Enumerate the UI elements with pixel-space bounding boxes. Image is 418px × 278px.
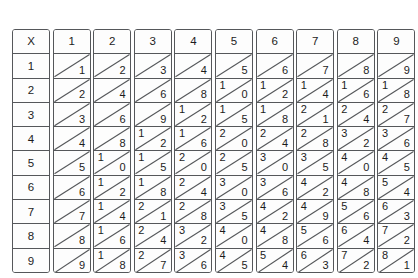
product-cell: 12	[135, 127, 171, 151]
column-header-cell-label: 1	[68, 36, 74, 48]
product-units-digit: 2	[282, 211, 288, 222]
product-cell: 63	[297, 249, 333, 273]
product-units-digit: 4	[282, 138, 288, 149]
product-tens-digit: 2	[220, 128, 226, 139]
product-tens-digit: 5	[260, 250, 266, 261]
product-tens-digit: 1	[179, 104, 185, 115]
product-tens-digit: 3	[220, 177, 226, 188]
product-cell: 16	[338, 79, 374, 103]
product-cell: 12	[175, 103, 211, 127]
product-units-digit: 5	[404, 162, 410, 173]
product-units-digit: 6	[363, 211, 369, 222]
product-tens-digit: 3	[341, 128, 347, 139]
product-tens-digit: 1	[341, 80, 347, 91]
product-tens-digit: 4	[341, 152, 347, 163]
product-tens-digit: 1	[220, 104, 226, 115]
row-header-cell: 7	[13, 200, 49, 224]
product-units-digit: 6	[363, 89, 369, 100]
product-cell: 10	[94, 151, 130, 175]
product-cell: 14	[297, 79, 333, 103]
product-units-digit: 8	[323, 138, 329, 149]
row-header-label: 8	[13, 224, 49, 247]
product-units-digit: 1	[404, 260, 410, 271]
product-tens-digit: 2	[382, 104, 388, 115]
product-cell: 25	[216, 151, 252, 175]
product-units-digit: 9	[79, 260, 85, 271]
column-header-cell: 3	[135, 30, 171, 54]
product-tens-digit: 4	[301, 201, 307, 212]
product-units-digit: 5	[241, 65, 247, 76]
product-units-digit: 6	[282, 65, 288, 76]
product-cell: 54	[257, 249, 293, 273]
product-units-digit: 0	[201, 162, 207, 173]
product-tens-digit: 1	[260, 80, 266, 91]
product-tens-digit: 2	[260, 128, 266, 139]
product-cell: 36	[378, 127, 414, 151]
product-cell: 18	[94, 249, 130, 273]
product-units-digit: 0	[120, 162, 126, 173]
product-cell: 32	[175, 224, 211, 248]
row-header-cell: 5	[13, 151, 49, 175]
product-tens-digit: 3	[301, 152, 307, 163]
column-header-cell: 5	[216, 30, 252, 54]
product-units-digit: 8	[363, 187, 369, 198]
product-cell: 7	[54, 200, 90, 224]
column-header-cell: 2	[94, 30, 130, 54]
product-cell: 45	[378, 151, 414, 175]
product-cell: 27	[378, 103, 414, 127]
product-units-digit: 2	[201, 235, 207, 246]
product-units-digit: 4	[282, 260, 288, 271]
product-tens-digit: 2	[301, 104, 307, 115]
product-cell: 30	[216, 176, 252, 200]
product-cell: 9	[135, 103, 171, 127]
product-cell: 72	[378, 224, 414, 248]
product-units-digit: 6	[201, 260, 207, 271]
column-header-cell: 1	[54, 30, 90, 54]
product-units-digit: 2	[323, 187, 329, 198]
product-units-digit: 0	[241, 235, 247, 246]
column-header-cell: 4	[175, 30, 211, 54]
product-units-digit: 2	[120, 187, 126, 198]
row-header-cell: 2	[13, 79, 49, 103]
product-cell: 6	[94, 103, 130, 127]
product-tens-digit: 7	[341, 250, 347, 261]
product-units-digit: 0	[241, 89, 247, 100]
product-column-4: 44812162024283236	[174, 29, 212, 273]
row-header-label: 7	[13, 200, 49, 223]
product-units-digit: 8	[282, 114, 288, 125]
column-header-cell: 9	[378, 30, 414, 54]
product-cell: 15	[216, 103, 252, 127]
product-tens-digit: 2	[301, 128, 307, 139]
product-cell: 3	[54, 103, 90, 127]
column-header-cell-label: 5	[231, 36, 237, 48]
column-header-cell: 8	[338, 30, 374, 54]
column-header-cell-label: 8	[353, 36, 359, 48]
product-cell: 4	[54, 127, 90, 151]
product-units-digit: 6	[201, 138, 207, 149]
product-units-digit: 6	[120, 235, 126, 246]
product-cell: 1	[54, 54, 90, 78]
product-tens-digit: 2	[220, 152, 226, 163]
product-tens-digit: 2	[179, 177, 185, 188]
column-header-cell: 7	[297, 30, 333, 54]
product-cell: 24	[257, 127, 293, 151]
product-cell: 24	[175, 176, 211, 200]
product-units-digit: 9	[160, 114, 166, 125]
product-units-digit: 3	[160, 65, 166, 76]
product-cell: 56	[297, 224, 333, 248]
product-units-digit: 2	[79, 89, 85, 100]
product-cell: 48	[257, 224, 293, 248]
product-column-5: 551015202530354045	[215, 29, 253, 273]
product-cell: 20	[216, 127, 252, 151]
product-tens-digit: 4	[382, 152, 388, 163]
product-tens-digit: 4	[260, 225, 266, 236]
product-tens-digit: 3	[220, 201, 226, 212]
product-tens-digit: 2	[341, 104, 347, 115]
product-units-digit: 2	[282, 89, 288, 100]
product-units-digit: 8	[282, 235, 288, 246]
product-units-digit: 7	[323, 65, 329, 76]
product-tens-digit: 5	[301, 225, 307, 236]
product-tens-digit: 2	[179, 152, 185, 163]
product-units-digit: 7	[79, 211, 85, 222]
product-units-digit: 2	[363, 260, 369, 271]
